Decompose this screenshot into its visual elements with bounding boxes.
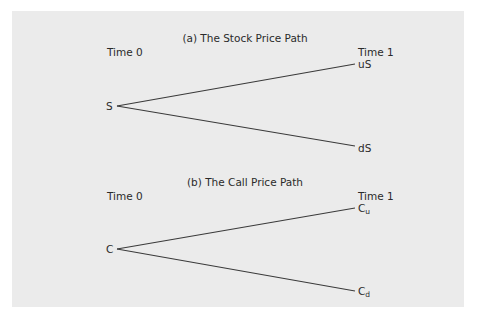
stock-down-branch [117, 106, 355, 146]
stock-down-node: dS [358, 142, 371, 154]
stock-path-title: (a) The Stock Price Path [182, 32, 307, 44]
call-down-subscript: d [365, 290, 370, 299]
stock-time0-label: Time 0 [107, 46, 143, 58]
call-down-branch [117, 249, 355, 291]
call-up-branch [117, 208, 355, 249]
stock-root-node: S [106, 100, 113, 112]
stock-up-branch [117, 64, 355, 106]
call-up-subscript: u [365, 207, 370, 216]
call-path-title: (b) The Call Price Path [187, 176, 303, 188]
call-down-node: Cd [358, 285, 370, 301]
call-root-node: C [106, 243, 113, 255]
call-up-node: Cu [358, 202, 370, 218]
call-time0-label: Time 0 [107, 190, 143, 202]
stock-up-node: uS [358, 58, 371, 70]
call-time1-label: Time 1 [358, 190, 394, 202]
tree-lines [0, 0, 492, 321]
stock-time1-label: Time 1 [358, 46, 394, 58]
